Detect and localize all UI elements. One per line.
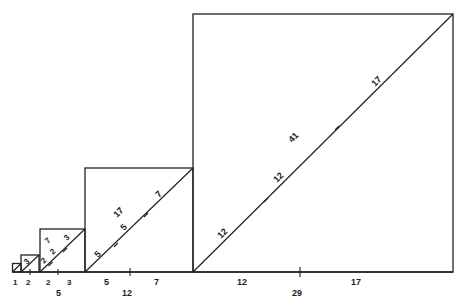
square-12-diag-label-a: 5 bbox=[92, 249, 103, 260]
square-12-base-label-b: 7 bbox=[154, 277, 159, 287]
square-29: 12 17 29 12 12 17 41 bbox=[193, 14, 453, 298]
square-1-diagonal bbox=[13, 264, 22, 273]
square-1-base-label: 1 bbox=[13, 278, 18, 287]
diagram-canvas: 1 2 3 2 3 5 2 2 3 7 5 7 12 5 5 7 17 bbox=[0, 0, 466, 308]
square-12-base-label-a: 5 bbox=[104, 277, 109, 287]
square-5-base-label-b: 3 bbox=[67, 278, 72, 287]
square-12-inner-label: 17 bbox=[111, 205, 125, 219]
square-12-total-label: 12 bbox=[122, 288, 132, 298]
square-29-inner-label: 41 bbox=[286, 130, 300, 144]
square-29-diag-tick-1 bbox=[264, 198, 268, 202]
square-5-inner-label: 7 bbox=[43, 236, 53, 246]
square-29-diag-label-c: 17 bbox=[369, 74, 383, 88]
square-29-base-label-a: 12 bbox=[237, 277, 247, 287]
square-5-base-label-a: 2 bbox=[46, 278, 51, 287]
square-12: 5 7 12 5 5 7 17 bbox=[85, 168, 193, 298]
square-5-diag-label-b: 2 bbox=[48, 247, 58, 257]
square-2-diagonal-label: 3 bbox=[22, 257, 32, 267]
square-5-total-label: 5 bbox=[56, 288, 61, 298]
square-2: 2 3 bbox=[21, 255, 39, 287]
square-5: 2 3 5 2 2 3 7 bbox=[39, 229, 85, 298]
square-2-base-label: 2 bbox=[26, 278, 31, 287]
square-5-diag-label-c: 3 bbox=[62, 233, 72, 243]
square-1: 1 bbox=[13, 264, 22, 288]
square-29-diagonal bbox=[193, 14, 453, 272]
square-29-base-label-b: 17 bbox=[351, 277, 361, 287]
square-29-total-label: 29 bbox=[292, 288, 302, 298]
pell-squares-diagram: 1 2 3 2 3 5 2 2 3 7 5 7 12 5 5 7 17 bbox=[0, 0, 466, 308]
